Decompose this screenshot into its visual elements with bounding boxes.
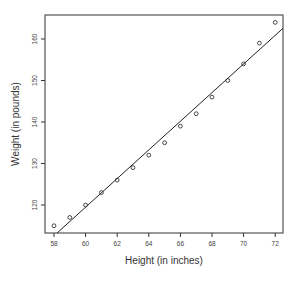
x-tick-label: 62 <box>114 240 122 247</box>
y-axis-title: Weight (in pounds) <box>10 82 21 166</box>
y-tick-label: 130 <box>31 158 38 169</box>
x-tick-label: 70 <box>240 240 248 247</box>
data-point <box>210 95 214 99</box>
x-axis-ticks: 5860626466687072 <box>50 233 279 247</box>
regression-line <box>57 28 283 233</box>
y-axis-title-group: Weight (in pounds) <box>10 82 21 166</box>
scatter-chart: Weight (in pounds) Height (in inches) 58… <box>0 0 299 282</box>
y-tick-label: 140 <box>31 116 38 127</box>
data-point <box>194 112 198 116</box>
data-point <box>84 203 88 207</box>
y-tick-label: 160 <box>31 33 38 44</box>
data-points <box>52 21 277 228</box>
data-point <box>52 224 56 228</box>
x-tick-label: 68 <box>208 240 216 247</box>
x-tick-label: 72 <box>272 240 280 247</box>
data-point <box>147 153 151 157</box>
x-tick-label: 60 <box>82 240 90 247</box>
data-point <box>179 124 183 128</box>
x-tick-label: 64 <box>145 240 153 247</box>
data-point <box>226 79 230 83</box>
plot-frame <box>45 15 283 233</box>
y-tick-label: 120 <box>31 199 38 210</box>
data-point <box>163 141 167 145</box>
x-axis-title: Height (in inches) <box>125 255 203 266</box>
y-tick-label: 150 <box>31 75 38 86</box>
x-tick-label: 66 <box>177 240 185 247</box>
data-point <box>68 216 72 220</box>
x-tick-label: 58 <box>50 240 58 247</box>
data-point <box>273 21 277 25</box>
regression-line-group <box>57 28 283 233</box>
y-axis-ticks: 120130140150160 <box>31 33 45 210</box>
data-point <box>131 166 135 170</box>
data-point <box>258 41 262 45</box>
